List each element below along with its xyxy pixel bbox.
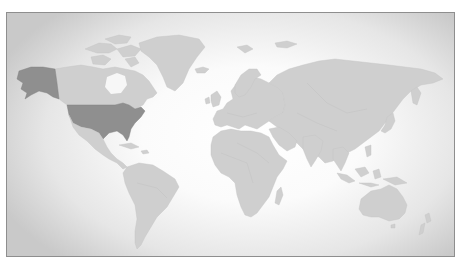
region-australia[interactable]: [359, 185, 407, 221]
region-south-america[interactable]: [123, 163, 179, 249]
world-map[interactable]: [7, 13, 455, 257]
region-caribbean[interactable]: [119, 143, 149, 154]
region-canada-arctic[interactable]: [85, 35, 141, 67]
page: [0, 0, 463, 264]
region-new-zealand[interactable]: [419, 213, 431, 235]
region-tasmania[interactable]: [391, 224, 395, 228]
region-iceland[interactable]: [195, 67, 209, 73]
region-asia[interactable]: [269, 59, 443, 163]
region-uk-ireland[interactable]: [205, 91, 221, 107]
world-map-frame: [6, 12, 455, 257]
region-usa[interactable]: [67, 103, 145, 141]
region-southeast-asia[interactable]: [333, 147, 349, 171]
region-svalbard[interactable]: [237, 41, 297, 53]
region-africa[interactable]: [211, 129, 287, 217]
region-alaska[interactable]: [17, 67, 59, 99]
region-india[interactable]: [303, 135, 323, 167]
region-madagascar[interactable]: [275, 187, 283, 205]
